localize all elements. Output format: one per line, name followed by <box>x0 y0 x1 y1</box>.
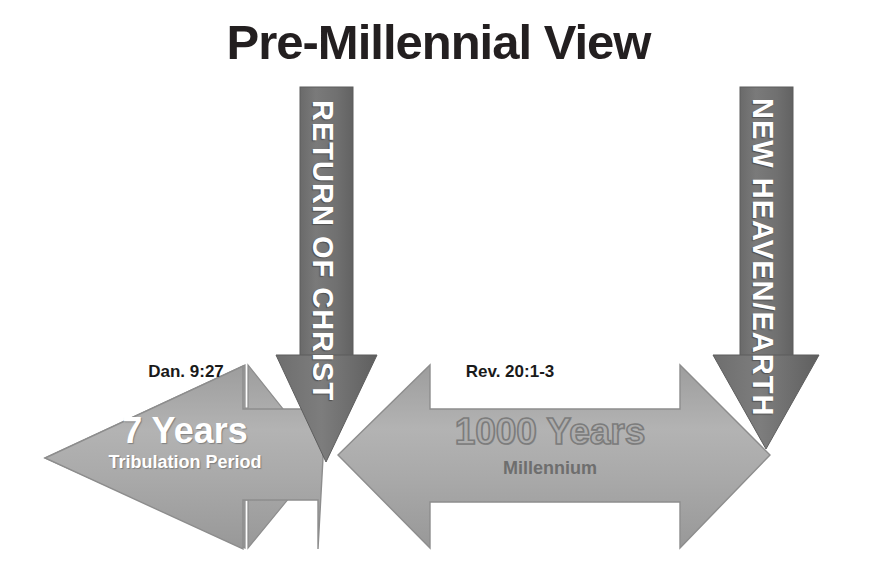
tribulation-scripture-reference: Dan. 9:27 <box>96 362 276 382</box>
millennium-duration-label: 1000 Years <box>375 411 725 453</box>
diagram-canvas: Pre-Millennial View Dan. 9:27 Rev. 20:1-… <box>0 0 877 577</box>
millennium-scripture-reference: Rev. 20:1-3 <box>400 362 620 382</box>
tribulation-duration-label: 7 Years <box>60 410 310 452</box>
return-of-christ-label: RETURN OF CHRIST <box>306 100 339 401</box>
millennium-arrow-shape <box>338 365 770 548</box>
new-heaven-earth-label: NEW HEAVEN/EARTH <box>746 98 779 416</box>
page-title: Pre-Millennial View <box>0 14 877 70</box>
millennium-period-label: Millennium <box>375 458 725 479</box>
tribulation-period-label: Tribulation Period <box>60 452 310 473</box>
